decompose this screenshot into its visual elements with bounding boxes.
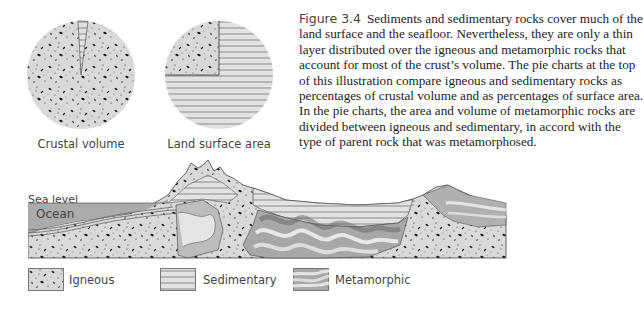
legend-swatch-igneous (28, 268, 64, 291)
legend-swatch-sedimentary (160, 268, 196, 291)
legend-label-sedimentary: Sedimentary (203, 273, 277, 287)
legend-label-igneous: Igneous (69, 273, 114, 287)
pie-land-surface-area (163, 19, 275, 131)
geologic-cross-section (28, 155, 508, 263)
legend-label-metamorphic: Metamorphic (335, 273, 411, 287)
pie-label-crustal-volume: Crustal volume (11, 137, 151, 151)
figure-number: Figure 3.4 (299, 11, 361, 26)
figure-caption-text: Sediments and sedimentary rocks cover mu… (299, 11, 643, 149)
ocean-label: Ocean (36, 207, 74, 221)
figure-caption: Figure 3.4Sediments and sedimentary rock… (299, 11, 644, 150)
pie-label-land-surface-area: Land surface area (149, 137, 289, 151)
pie-crustal-volume (25, 19, 137, 131)
legend-swatch-metamorphic (293, 268, 329, 291)
